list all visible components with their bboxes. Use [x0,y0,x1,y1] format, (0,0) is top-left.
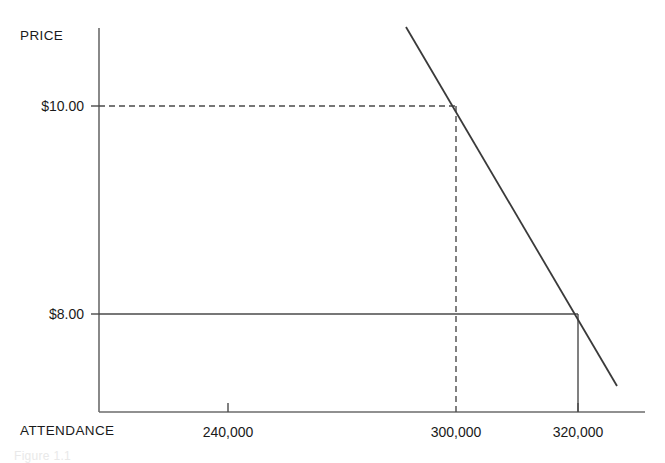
x-tick-label-300000: 300,000 [431,424,482,440]
x-axis-title: ATTENDANCE [20,423,115,438]
figure-container: PRICE ATTENDANCE $10.00 $8.00 240,000 30… [0,0,665,463]
x-tick-label-240000: 240,000 [203,424,254,440]
price-attendance-line-chart: PRICE ATTENDANCE $10.00 $8.00 240,000 30… [0,0,665,463]
y-tick-label-10: $10.00 [41,98,84,114]
x-tick-label-320000: 320,000 [553,424,604,440]
demand-curve-line [406,27,617,386]
y-axis-title: PRICE [20,28,63,43]
figure-caption: Figure 1.1 [14,449,71,463]
y-tick-label-8: $8.00 [49,306,84,322]
